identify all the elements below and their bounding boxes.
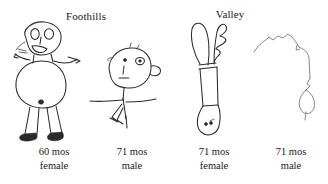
caption-age: 71 mos	[178, 145, 250, 159]
child-drawing-3-artwork	[170, 16, 254, 144]
caption-sex: male	[258, 159, 324, 173]
child-drawing-2	[90, 16, 170, 144]
caption-drawing-3: 71 mos female	[178, 145, 250, 172]
caption-age: 71 mos	[98, 145, 166, 159]
caption-age: 60 mos	[18, 145, 90, 159]
child-drawing-1	[6, 16, 94, 144]
child-drawing-4	[252, 16, 328, 144]
child-drawing-2-artwork	[90, 16, 170, 144]
figure-plate: Foothills Valley	[0, 0, 328, 184]
caption-sex: male	[98, 159, 166, 173]
caption-drawing-4: 71 mos male	[258, 145, 324, 172]
caption-drawing-1: 60 mos female	[18, 145, 90, 172]
caption-age: 71 mos	[258, 145, 324, 159]
caption-sex: female	[178, 159, 250, 173]
child-drawing-4-artwork	[252, 16, 328, 144]
caption-drawing-2: 71 mos male	[98, 145, 166, 172]
caption-sex: female	[18, 159, 90, 173]
child-drawing-3	[170, 16, 254, 144]
child-drawing-1-artwork	[6, 16, 94, 144]
